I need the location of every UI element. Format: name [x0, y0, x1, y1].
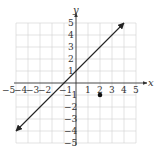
x-tick-label: −2	[38, 85, 51, 95]
x-tick-label: 4	[121, 85, 127, 95]
y-tick-label: −2	[64, 102, 77, 112]
y-tick-label: 2	[68, 54, 74, 64]
y-tick-label: 4	[68, 30, 74, 40]
y-axis-label: y	[72, 4, 79, 15]
y-tick-label: 3	[68, 42, 74, 52]
x-axis-label: x	[148, 77, 154, 88]
x-tick-label: 1	[85, 85, 91, 95]
y-tick-labels: 5 4 3 2 1 −1 −2 −3 −4 −5	[64, 18, 78, 146]
x-tick-label: 5	[133, 85, 139, 95]
coordinate-plane: x y −5 −4 −3 −2 −1 1 2 3 4 5 5 4 3 2 1 −…	[0, 0, 159, 146]
y-tick-label: −1	[64, 90, 77, 100]
y-tick-label: −4	[64, 126, 78, 136]
y-tick-label: −3	[64, 114, 78, 124]
y-tick-label: 5	[68, 18, 74, 28]
y-tick-label: −5	[64, 138, 78, 146]
x-tick-label: 3	[109, 85, 115, 95]
data-point	[98, 93, 103, 98]
